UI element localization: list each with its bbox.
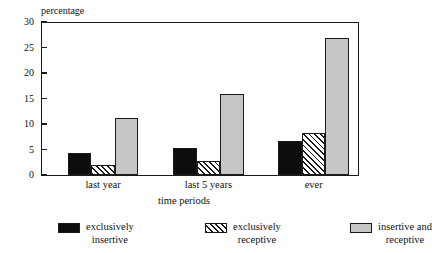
y-axis-title: percentage bbox=[41, 5, 84, 17]
y-tick-label: 25 bbox=[24, 41, 34, 54]
legend-label-line1: exclusively bbox=[86, 221, 134, 232]
chart-legend: exclusivelyinsertiveexclusivelyreceptive… bbox=[0, 221, 369, 253]
bar[interactable] bbox=[115, 118, 139, 175]
bar[interactable] bbox=[278, 141, 302, 175]
legend-label-line2: insertive bbox=[86, 234, 134, 247]
bar[interactable] bbox=[220, 94, 244, 175]
legend-label-line1: insertive and bbox=[378, 221, 432, 232]
plot-area bbox=[42, 22, 358, 175]
legend-label: insertive andreceptive bbox=[378, 221, 432, 246]
legend-item[interactable]: insertive andreceptive bbox=[350, 221, 432, 246]
x-axis-title: time periods bbox=[158, 194, 210, 207]
x-tick-label: ever bbox=[305, 178, 323, 191]
legend-label-line2: receptive bbox=[233, 234, 281, 247]
y-tick-label: 10 bbox=[24, 117, 34, 130]
y-tick-label: 15 bbox=[24, 92, 34, 105]
legend-label: exclusivelyinsertive bbox=[86, 221, 134, 246]
legend-item[interactable]: exclusivelyreceptive bbox=[205, 221, 281, 246]
bar-group bbox=[278, 22, 349, 175]
legend-label-line2: receptive bbox=[378, 234, 432, 247]
legend-swatch bbox=[58, 223, 80, 233]
legend-label-line1: exclusively bbox=[233, 221, 281, 232]
bar[interactable] bbox=[173, 148, 197, 175]
legend-swatch bbox=[205, 223, 227, 233]
bar[interactable] bbox=[197, 161, 221, 175]
bar-group bbox=[68, 22, 139, 175]
y-tick-label: 20 bbox=[24, 66, 34, 79]
legend-label: exclusivelyreceptive bbox=[233, 221, 281, 246]
bar[interactable] bbox=[325, 38, 349, 175]
legend-item[interactable]: exclusivelyinsertive bbox=[58, 221, 134, 246]
bar-group bbox=[173, 22, 244, 175]
bar[interactable] bbox=[91, 165, 115, 175]
bar[interactable] bbox=[302, 133, 326, 175]
y-tick-label: 30 bbox=[24, 15, 34, 28]
x-tick-label: last 5 years bbox=[185, 178, 232, 191]
legend-swatch bbox=[350, 223, 372, 233]
y-tick-label: 0 bbox=[29, 168, 34, 181]
bar[interactable] bbox=[68, 153, 92, 175]
x-tick-label: last year bbox=[85, 178, 120, 191]
y-tick-label: 5 bbox=[29, 143, 34, 156]
